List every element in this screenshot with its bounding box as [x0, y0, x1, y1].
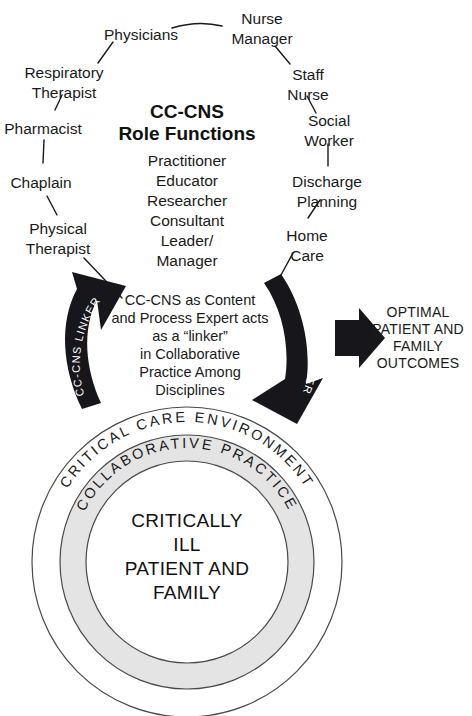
core-line4: FAMILY	[153, 582, 221, 603]
label-social-worker-line2: Worker	[304, 132, 354, 149]
center-statement-line2: and Process Expert acts	[111, 310, 268, 326]
connector-pharmacist-chaplain	[43, 140, 44, 163]
label-physical-therapist-line1: Physical	[29, 220, 87, 237]
role-function-1: Educator	[156, 172, 218, 189]
label-nurse-manager-line1: Nurse	[241, 10, 282, 27]
outcome-line2: PATIENT AND	[372, 321, 464, 337]
connector-chaplain-physical	[47, 196, 57, 215]
label-staff-nurse-line1: Staff	[292, 66, 324, 83]
role-function-5: Manager	[156, 252, 217, 269]
outcome-line1: OPTIMAL	[387, 304, 450, 320]
diagram-canvas: Physicians Nurse Manager Respiratory The…	[0, 0, 472, 716]
role-function-0: Practitioner	[148, 152, 226, 169]
outcome-line4: OUTCOMES	[377, 355, 460, 371]
label-home-care-line1: Home	[286, 227, 327, 244]
label-pharmacist: Pharmacist	[4, 120, 82, 137]
center-statement-line4: in Collaborative	[140, 346, 240, 362]
optimal-outcomes-block: OPTIMAL PATIENT AND FAMILY OUTCOMES	[372, 304, 464, 371]
label-nurse-manager-line2: Manager	[231, 30, 292, 47]
role-function-4: Leader/	[161, 232, 214, 249]
connector-nursemanager-staffnurse	[275, 46, 290, 64]
figure-title-line1: CC-CNS	[150, 101, 224, 122]
label-discharge-planning-line2: Planning	[297, 193, 357, 210]
label-social-worker-line1: Social	[308, 112, 350, 129]
label-respiratory-therapist-line1: Respiratory	[24, 64, 103, 81]
center-statement-line6: Disciplines	[155, 382, 224, 398]
figure-title-line2: Role Functions	[118, 123, 255, 144]
connector-physicians-nursemanager	[172, 23, 222, 28]
center-statement-line3: as a “linker”	[152, 328, 228, 344]
center-statement-block: CC-CNS as Content and Process Expert act…	[111, 292, 268, 398]
label-chaplain: Chaplain	[10, 174, 71, 191]
label-respiratory-therapist-line2: Therapist	[32, 84, 97, 101]
core-line3: PATIENT AND	[125, 558, 250, 579]
cc-cns-linker-arrow-left: CC-CNS LINKER	[65, 272, 126, 409]
label-home-care-line2: Care	[290, 247, 324, 264]
center-statement-line1: CC-CNS as Content	[125, 292, 256, 308]
outcome-line3: FAMILY	[393, 338, 443, 354]
core-line2: ILL	[173, 534, 200, 555]
role-function-3: Consultant	[150, 212, 225, 229]
center-statement-line5: Practice Among	[139, 364, 241, 380]
label-physicians: Physicians	[104, 26, 178, 43]
role-function-2: Researcher	[147, 192, 227, 209]
label-discharge-planning-line1: Discharge	[292, 173, 362, 190]
cc-cns-linker-arrow-right: CC-CNS LINKER	[252, 274, 323, 424]
label-staff-nurse-line2: Nurse	[287, 86, 328, 103]
connector-physicians-respiratory	[98, 42, 113, 63]
cc-cns-role-functions-block: CC-CNS Role Functions Practitioner Educa…	[118, 101, 255, 269]
core-line1: CRITICALLY	[131, 510, 242, 531]
label-physical-therapist-line2: Therapist	[26, 240, 91, 257]
